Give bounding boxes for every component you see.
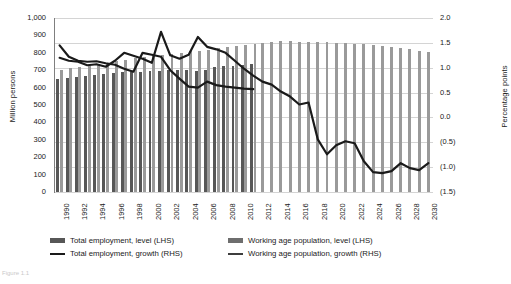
x-axis-tick-label: 1998 (135, 203, 144, 220)
legend-item-total-employment-level: Total employment, level (LHS) (50, 236, 174, 245)
y-axis-left-tick-label: 900 (4, 31, 46, 39)
x-axis-tick-label: 2008 (228, 203, 237, 220)
y-axis-right-tick-label: 0.5 (440, 89, 450, 97)
line-working-age-population-growth (60, 32, 429, 173)
y-axis-left-tick-label: 1,000 (4, 14, 46, 22)
x-axis-tick-label: 2022 (357, 203, 366, 220)
plot-area (54, 18, 433, 193)
x-axis-tick-label: 2018 (320, 203, 329, 220)
y-axis-left-tick-label: 100 (4, 171, 46, 179)
y-axis-right-tick-label: (0.5) (440, 138, 455, 146)
y-axis-left-tick-label: 600 (4, 84, 46, 92)
legend-label: Total employment, level (LHS) (70, 236, 174, 245)
y-axis-left-tick-label: 0 (4, 188, 46, 196)
legend-item-total-employment-growth: Total employment, growth (RHS) (50, 249, 183, 258)
y-axis-right-tick-label: 1.5 (440, 39, 450, 47)
chart-figure: Million persons Percentage points 010020… (0, 0, 511, 284)
y-axis-left-ticks: 01002003004005006007008009001,000 (0, 18, 46, 192)
gridline (55, 192, 433, 193)
y-axis-right-tick-label: (1.5) (440, 188, 455, 196)
legend-item-working-age-population-growth: Working age population, growth (RHS) (228, 249, 381, 258)
line-series-group (55, 18, 433, 192)
x-axis-tick-label: 2010 (246, 203, 255, 220)
y-axis-left-tick-label: 300 (4, 136, 46, 144)
x-axis-tick-label: 2012 (264, 203, 273, 220)
x-axis-tick-label: 1994 (98, 203, 107, 220)
y-axis-right-tick-label: 2.0 (440, 14, 450, 22)
legend-swatch-bar-icon (50, 238, 65, 243)
x-axis-tick-label: 1996 (117, 203, 126, 220)
y-axis-left-tick-label: 700 (4, 66, 46, 74)
x-axis-tick-label: 2028 (412, 203, 421, 220)
y-axis-left-tick-label: 200 (4, 153, 46, 161)
legend-label: Working age population, level (LHS) (248, 236, 373, 245)
y-axis-right-ticks: (1.5)(1.0)(0.5)0.00.51.01.52.0 (432, 18, 472, 192)
x-axis-ticks: 1990199219941996199820002002200420062008… (54, 194, 432, 230)
legend-swatch-bar-icon (228, 238, 243, 243)
y-axis-right-title: Percentage points (500, 52, 509, 142)
y-axis-right-tick-label: 0.0 (440, 113, 450, 121)
x-axis-tick-label: 2016 (301, 203, 310, 220)
y-axis-left-tick-label: 400 (4, 118, 46, 126)
x-axis-tick-label: 2024 (375, 203, 384, 220)
x-axis-tick-label: 2000 (154, 203, 163, 220)
x-axis-tick-label: 2004 (191, 203, 200, 220)
figure-caption: Figure 1.1 (2, 270, 29, 276)
legend-label: Working age population, growth (RHS) (248, 249, 381, 258)
y-axis-right-tick-label: 1.0 (440, 64, 450, 72)
x-axis-tick-label: 2026 (394, 203, 403, 220)
x-axis-tick-label: 2002 (172, 203, 181, 220)
x-axis-tick-label: 1990 (62, 203, 71, 220)
y-axis-left-tick-label: 500 (4, 101, 46, 109)
x-axis-tick-label: 2030 (430, 203, 439, 220)
chart-legend: Total employment, level (LHS) Total empl… (0, 234, 511, 264)
x-axis-tick-label: 1992 (80, 203, 89, 220)
legend-item-working-age-population-level: Working age population, level (LHS) (228, 236, 373, 245)
x-axis-tick-label: 2006 (209, 203, 218, 220)
x-axis-tick-label: 2014 (283, 203, 292, 220)
x-axis-tick-label: 2020 (338, 203, 347, 220)
y-axis-right-tick-label: (1.0) (440, 163, 455, 171)
legend-swatch-line-icon (50, 253, 65, 255)
legend-swatch-line-icon (228, 253, 243, 255)
y-axis-left-tick-label: 800 (4, 49, 46, 57)
legend-label: Total employment, growth (RHS) (70, 249, 183, 258)
